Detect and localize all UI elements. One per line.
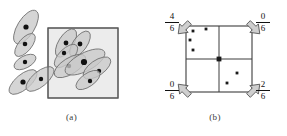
centroid-dot xyxy=(20,79,25,84)
fraction-numerator: 0 xyxy=(165,80,179,89)
fraction-denominator: 6 xyxy=(165,92,179,101)
center-point-marker xyxy=(217,57,222,62)
sample-point xyxy=(205,28,208,31)
panel-a: (a) xyxy=(0,0,143,136)
centroid-dot xyxy=(64,41,69,46)
fraction-numerator: 0 xyxy=(256,12,270,21)
sample-point xyxy=(226,82,229,85)
centroid-dot xyxy=(39,77,43,81)
caption-panel-a: (a) xyxy=(0,112,143,122)
fraction-label-bottom-left: 0 6 xyxy=(165,80,179,101)
centroid-dot xyxy=(23,42,28,47)
sample-point xyxy=(192,30,195,33)
centroid-dot xyxy=(62,51,66,55)
centroid-dot xyxy=(88,79,92,83)
figure-container: (a) xyxy=(0,0,287,136)
fraction-label-top-left: 4 6 xyxy=(165,12,179,33)
sample-point-group xyxy=(189,28,239,85)
centroid-dot xyxy=(23,24,28,29)
centroid-dot xyxy=(81,59,87,65)
panel-a-drawing xyxy=(0,0,143,112)
fraction-denominator: 6 xyxy=(165,24,179,33)
centroid-dot xyxy=(78,42,83,47)
caption-panel-b: (b) xyxy=(143,112,287,122)
centroid-dot xyxy=(23,60,27,64)
sample-point xyxy=(236,72,239,75)
fraction-denominator: 6 xyxy=(256,24,270,33)
fraction-denominator: 6 xyxy=(256,92,270,101)
sample-point xyxy=(192,49,195,52)
fraction-label-top-right: 0 6 xyxy=(256,12,270,33)
fraction-label-bottom-right: 2 6 xyxy=(256,80,270,101)
fraction-numerator: 4 xyxy=(165,12,179,21)
fraction-numerator: 2 xyxy=(256,80,270,89)
panel-b: 4 6 0 6 0 6 2 6 (b) xyxy=(143,0,287,136)
sample-point xyxy=(189,39,192,42)
